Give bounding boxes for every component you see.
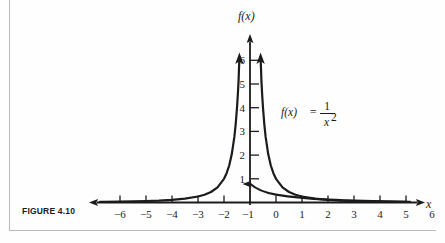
x-tick-labels: −6 −5 −4 −3 −2 −1 0 1 2 3 4 5 6 (114, 208, 435, 220)
curve-left (276, 179, 409, 202)
x-tick-label: −1 (242, 208, 254, 220)
equation-lhs: f(x) (281, 106, 297, 119)
x-tick-label: −6 (114, 208, 126, 220)
figure-page: f(x) x −6 −5 −4 −3 −2 −1 0 1 2 3 4 5 6 1… (0, 0, 445, 243)
y-tick-label: 4 (240, 102, 246, 114)
equation-denominator-exponent: 2 (331, 111, 337, 123)
x-tick-label: −2 (218, 208, 230, 220)
x-tick-label: 3 (351, 208, 357, 220)
equation-numerator: 1 (324, 100, 330, 112)
x-tick-label-origin: 0 (273, 208, 279, 220)
y-tick-label: 3 (240, 125, 246, 137)
equation-equals: = (310, 106, 317, 118)
equation-annotation: f(x) = 1 x 2 (281, 100, 337, 128)
y-axis-ticks (250, 60, 259, 179)
x-tick-label: −4 (166, 208, 178, 220)
y-tick-label: 6 (240, 54, 246, 66)
y-axis (250, 42, 259, 205)
y-tick-label: 2 (240, 149, 246, 161)
x-tick-label: 4 (377, 208, 383, 220)
figure-caption: FIGURE 4.10 (22, 206, 75, 216)
x-tick-label: 6 (429, 208, 435, 220)
x-tick-label: 1 (299, 208, 305, 220)
x-tick-label: 5 (403, 208, 409, 220)
function-curve (251, 179, 409, 202)
x-tick-label: −5 (140, 208, 152, 220)
x-tick-label: −3 (192, 208, 204, 220)
y-tick-labels: 1 2 3 4 5 6 (240, 54, 246, 185)
x-tick-label: 2 (325, 208, 331, 220)
y-tick-label: 5 (240, 78, 246, 90)
curve-left-branch-line (100, 62, 239, 202)
y-tick-label: 1 (240, 173, 246, 185)
equation-denominator-base: x (323, 116, 330, 128)
y-axis-label: f(x) (238, 9, 255, 23)
curve-right-branch (261, 62, 410, 202)
